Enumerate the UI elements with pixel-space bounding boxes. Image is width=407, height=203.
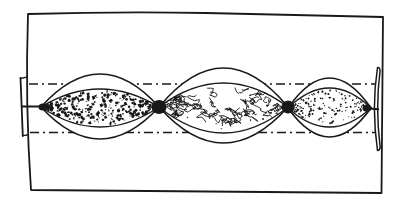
left-layer-tab bbox=[21, 77, 42, 136]
left-tip-node bbox=[39, 104, 48, 111]
boudinage-diagram bbox=[0, 0, 407, 203]
pinch-node-2 bbox=[282, 101, 295, 114]
left-boudin bbox=[41, 74, 159, 139]
pinch-node-1 bbox=[152, 100, 167, 114]
middle-boudin bbox=[159, 68, 294, 143]
figure-canvas bbox=[0, 0, 407, 203]
right-tip-node bbox=[363, 105, 372, 112]
right-boudin bbox=[288, 78, 371, 137]
